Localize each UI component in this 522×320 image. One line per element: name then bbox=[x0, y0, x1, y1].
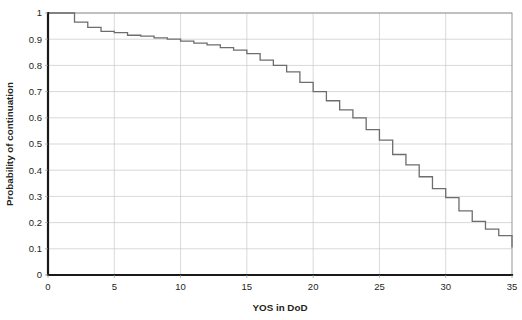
y-tick-label-0.2: 0.2 bbox=[29, 217, 42, 228]
y-tick-label-0.5: 0.5 bbox=[29, 138, 42, 149]
x-tick-label-25: 25 bbox=[374, 281, 385, 292]
x-tick-label-15: 15 bbox=[242, 281, 253, 292]
x-tick-label-30: 30 bbox=[440, 281, 451, 292]
y-tick-label-0.7: 0.7 bbox=[29, 86, 42, 97]
x-tick-label-35: 35 bbox=[507, 281, 518, 292]
y-tick-label-0.6: 0.6 bbox=[29, 112, 42, 123]
continuation-probability-step-chart: 00.10.20.30.40.50.60.70.80.91 0510152025… bbox=[0, 0, 522, 320]
x-tick-label-0: 0 bbox=[45, 281, 50, 292]
y-tick-label-0.4: 0.4 bbox=[29, 165, 42, 176]
y-tick-label-1: 1 bbox=[37, 7, 42, 18]
chart-background bbox=[0, 0, 522, 320]
y-tick-label-0.3: 0.3 bbox=[29, 191, 42, 202]
x-axis-title: YOS in DoD bbox=[253, 302, 308, 313]
y-axis-title: Probability of continuation bbox=[4, 82, 15, 206]
y-tick-label-0.1: 0.1 bbox=[29, 243, 42, 254]
x-tick-label-5: 5 bbox=[112, 281, 117, 292]
x-tick-label-10: 10 bbox=[175, 281, 186, 292]
chart-container: 00.10.20.30.40.50.60.70.80.91 0510152025… bbox=[0, 0, 522, 320]
y-tick-label-0: 0 bbox=[37, 269, 42, 280]
y-tick-label-0.8: 0.8 bbox=[29, 60, 42, 71]
y-tick-label-0.9: 0.9 bbox=[29, 34, 42, 45]
x-tick-label-20: 20 bbox=[308, 281, 319, 292]
